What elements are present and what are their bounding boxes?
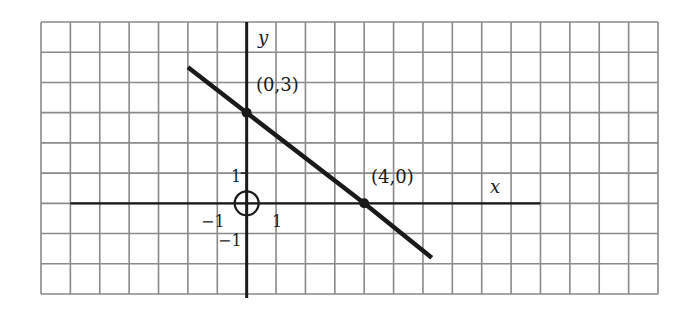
coordinate-graph: y x (0,3) (4,0) 1 −1 1 −1	[0, 0, 689, 315]
tick-label-y-neg1: −1	[218, 231, 242, 250]
tick-label-x-1: 1	[272, 212, 282, 231]
data-point	[242, 108, 252, 118]
point-label-0-3: (0,3)	[256, 74, 299, 95]
grid-lines	[41, 22, 658, 294]
tick-label-x-neg1: −1	[201, 212, 225, 231]
y-axis-label: y	[257, 27, 269, 48]
point-label-4-0: (4,0)	[371, 166, 414, 187]
data-point	[359, 198, 369, 208]
tick-label-y-1: 1	[231, 167, 241, 186]
x-axis-label: x	[490, 176, 500, 197]
